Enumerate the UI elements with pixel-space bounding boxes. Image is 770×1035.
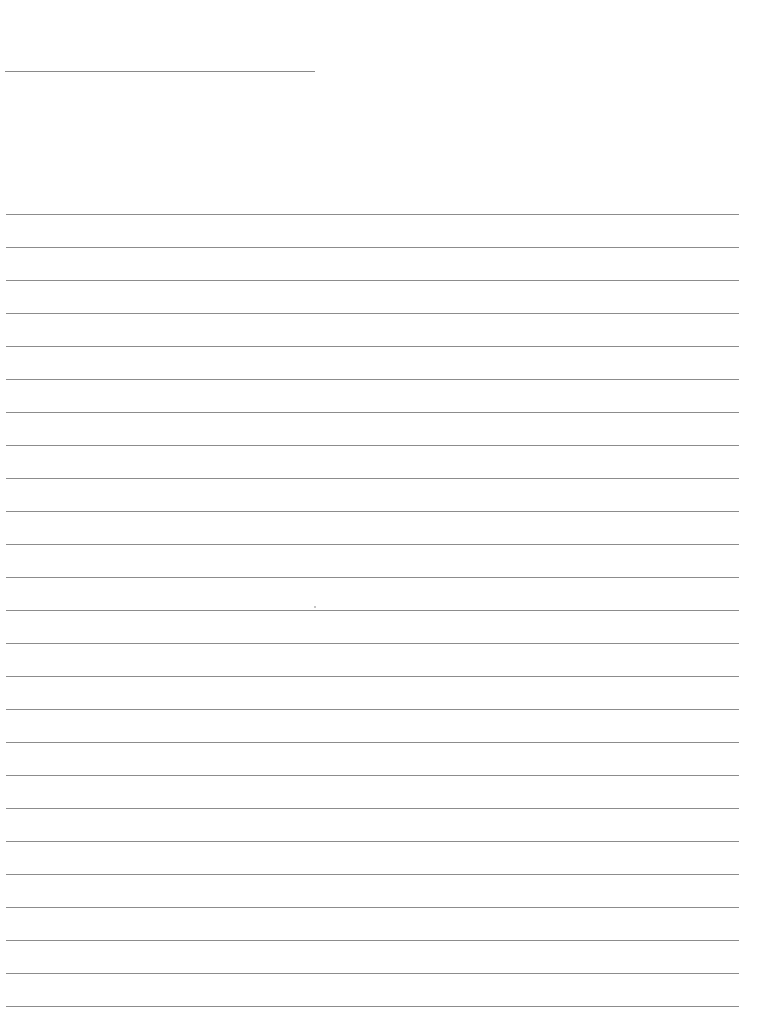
- ruled-line: [6, 511, 739, 512]
- ruled-line: [6, 808, 739, 809]
- ruled-line: [6, 379, 739, 380]
- ruled-line: [6, 775, 739, 776]
- ruled-line: [6, 445, 739, 446]
- ruled-line: [6, 841, 739, 842]
- ruled-line: [6, 874, 739, 875]
- ruled-line: [6, 643, 739, 644]
- ruled-line: [6, 742, 739, 743]
- ruled-line: [6, 1006, 739, 1007]
- ruled-line: [6, 940, 739, 941]
- ruled-line: [6, 478, 739, 479]
- ruled-line: [6, 676, 739, 677]
- ruled-line: [6, 214, 739, 215]
- ruled-line: [6, 610, 739, 611]
- ruled-line: [6, 709, 739, 710]
- ruled-line: [6, 313, 739, 314]
- ruled-line: [6, 280, 739, 281]
- ruled-line: [6, 907, 739, 908]
- ruled-line: [6, 544, 739, 545]
- lined-paper-page: [0, 0, 770, 1035]
- title-underline: [5, 71, 315, 72]
- ruled-line: [6, 346, 739, 347]
- ruled-line: [6, 247, 739, 248]
- ruled-line: [6, 412, 739, 413]
- ruled-line: [6, 577, 739, 578]
- paper-speck: [314, 606, 316, 608]
- ruled-line: [6, 973, 739, 974]
